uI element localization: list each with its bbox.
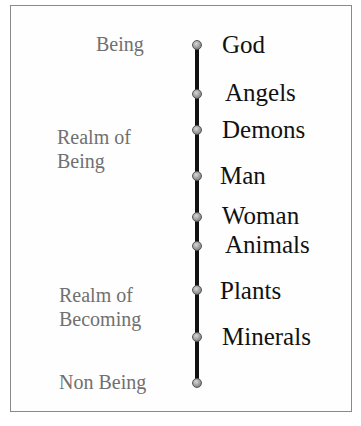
realm-line: Realm of [59, 283, 141, 307]
diagram-frame [10, 5, 352, 412]
realm-line: Being [96, 33, 144, 55]
node-animals [192, 241, 202, 251]
item-label-god: God [222, 32, 265, 57]
realm-line: Being [57, 149, 131, 173]
realm-label-non-being: Non Being [59, 370, 146, 394]
realm-line: Non Being [59, 371, 146, 393]
node-minerals [192, 332, 202, 342]
node-god [192, 40, 202, 50]
node-plants [192, 285, 202, 295]
realm-line: Becoming [59, 307, 141, 331]
item-label-angels: Angels [225, 80, 296, 105]
item-label-plants: Plants [220, 278, 281, 303]
node-demons [192, 125, 202, 135]
node-woman [192, 212, 202, 222]
item-label-animals: Animals [225, 232, 310, 257]
realm-label-being: Being [96, 32, 144, 56]
node-man [192, 171, 202, 181]
item-label-man: Man [220, 163, 266, 188]
item-label-minerals: Minerals [222, 324, 311, 349]
realm-label-realm-of-being: Realm of Being [57, 125, 131, 173]
item-label-woman: Woman [222, 203, 299, 228]
realm-line: Realm of [57, 125, 131, 149]
item-label-demons: Demons [222, 117, 305, 142]
realm-label-realm-of-becoming: Realm of Becoming [59, 283, 141, 331]
node-angels [192, 89, 202, 99]
node-non-being [192, 378, 202, 388]
